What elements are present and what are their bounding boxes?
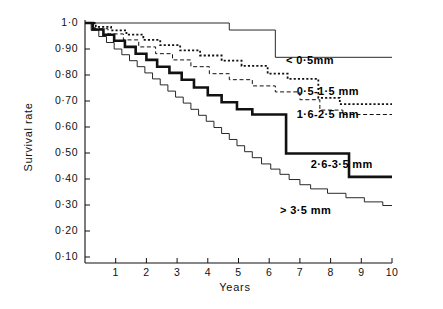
x-axis-tick-label: 3	[162, 266, 192, 278]
x-axis-tick-label: 9	[346, 266, 376, 278]
survival-curve	[85, 23, 392, 177]
y-axis-tick-label: 0·10	[14, 250, 78, 262]
y-axis-tick-label: 0·30	[14, 198, 78, 210]
x-axis-tick-label: 8	[316, 266, 346, 278]
x-axis-tick-label: 1	[101, 266, 131, 278]
x-axis-tick-label: 4	[193, 266, 223, 278]
legend-label-5: > 3·5 mm	[280, 204, 331, 216]
y-axis-tick-label: 0·20	[14, 224, 78, 236]
x-axis-tick-label: 7	[285, 266, 315, 278]
y-axis-tick-label: 0·90	[14, 42, 78, 54]
legend-label-4: 2·6-3·5 mm	[311, 158, 373, 170]
y-axis-tick-label: 0·80	[14, 68, 78, 80]
x-axis-tick-label: 5	[224, 266, 254, 278]
x-axis-tick-label: 10	[377, 266, 407, 278]
legend-label-2: 0·5-1·5 mm	[297, 85, 359, 97]
x-axis-tick-label: 2	[131, 266, 161, 278]
x-axis-tick-label: 6	[254, 266, 284, 278]
y-axis-tick-label: 1·0	[14, 16, 78, 28]
axis-lines	[85, 20, 392, 263]
x-axis-ticks	[116, 258, 392, 263]
y-axis-title: Survival rate	[22, 92, 34, 182]
legend-label-3: 1·6-2·5 mm	[297, 108, 359, 120]
survival-curve	[85, 23, 392, 115]
survival-curve-figure: 1·00·900·800·700·600·500·400·300·200·10 …	[0, 0, 443, 309]
x-axis-title: Years	[180, 281, 290, 293]
y-axis-ticks	[85, 23, 90, 257]
legend-label-1: < 0·5mm	[286, 54, 334, 66]
